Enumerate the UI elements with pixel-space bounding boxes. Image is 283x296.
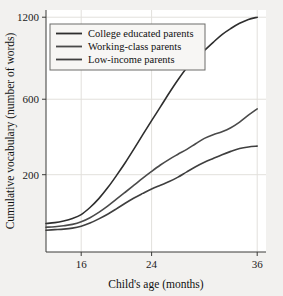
vocabulary-growth-chart: 162436 2006001200 Child's age (months) C…	[0, 0, 283, 296]
y-tick-label: 200	[23, 169, 40, 181]
legend-entries-group: College educated parentsWorking-class pa…	[56, 28, 194, 65]
x-tick-label: 16	[76, 258, 88, 270]
chart-svg: 162436 2006001200 Child's age (months) C…	[0, 0, 283, 296]
y-axis-title: Cumulative vocabulary (number of words)	[4, 32, 17, 229]
y-tick-label: 1200	[17, 11, 40, 23]
legend-label: Low-income parents	[88, 54, 175, 65]
chart-legend: College educated parentsWorking-class pa…	[50, 24, 205, 70]
y-tick-label: 600	[23, 93, 40, 105]
legend-label: College educated parents	[88, 28, 194, 39]
legend-label: Working-class parents	[88, 41, 181, 52]
x-tick-label: 36	[252, 258, 264, 270]
x-axis-title: Child's age (months)	[108, 278, 204, 291]
x-tick-label: 24	[146, 258, 158, 270]
